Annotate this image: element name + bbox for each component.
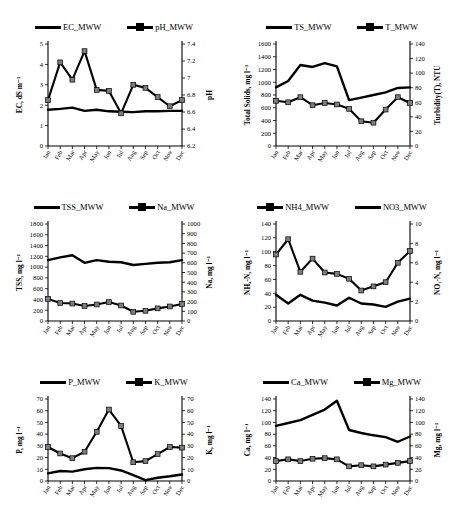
y-axis-tick-label: 100 xyxy=(261,419,272,426)
y2-axis-tick-label: 100 xyxy=(187,308,198,315)
x-axis-tick-label: Aug xyxy=(125,148,137,162)
data-point-marker xyxy=(347,276,352,281)
x-axis-tick-label: Sep xyxy=(366,484,377,496)
series-line-ts_mww xyxy=(276,63,410,100)
y2-axis-tick-label: 140 xyxy=(415,40,426,47)
data-point-marker xyxy=(383,107,388,112)
y-axis-tick-label: 0 xyxy=(40,477,44,484)
series-line-k_mww xyxy=(48,410,182,463)
x-axis-tick-label: Jun xyxy=(330,483,341,495)
y-axis-tick-label: 2 xyxy=(40,102,43,109)
y-axis-tick-label: 20 xyxy=(36,454,43,461)
y-axis-tick-label: 200 xyxy=(33,307,44,314)
x-axis-tick-label: Sep xyxy=(138,149,149,161)
y2-axis-tick-label: 120 xyxy=(415,55,426,62)
data-point-marker xyxy=(395,460,400,465)
y2-axis-tick-label: 140 xyxy=(415,395,426,402)
x-axis-tick-label: Oct xyxy=(150,324,161,336)
panel-p-k: P_MWWK_MWW010203040506070010203040506070… xyxy=(0,355,228,515)
data-point-marker xyxy=(371,464,376,469)
x-axis-tick-label: Feb xyxy=(281,484,292,496)
y-axis-tick-label: 0 xyxy=(40,142,44,149)
y2-axis-tick-label: 100 xyxy=(415,69,426,76)
y2-axis-tick-label: 1000 xyxy=(187,220,201,227)
y2-axis-tick-label: 20 xyxy=(415,466,422,473)
x-axis-tick-label: Jan xyxy=(41,148,52,160)
x-axis-tick-label: Nov xyxy=(162,483,174,497)
figure-panel-grid: EC_MWWpH_MWW0123456.26.46.66.877.27.4Jan… xyxy=(0,0,456,515)
y-axis-title: NH₄-N, mg l⁻¹ xyxy=(243,250,252,295)
x-axis-tick-label: Feb xyxy=(53,324,64,336)
x-axis-tick-label: Mar xyxy=(64,148,76,161)
y-axis-tick-label: 120 xyxy=(261,407,272,414)
y-axis-tick-label: 800 xyxy=(33,274,44,281)
y2-axis-tick-label: 2 xyxy=(415,298,418,305)
y-axis-tick-label: 0 xyxy=(268,477,272,484)
data-point-marker xyxy=(107,407,112,412)
data-point-marker xyxy=(180,98,185,103)
x-axis-tick-label: Nov xyxy=(390,483,402,497)
x-axis-tick-label: Mar xyxy=(292,483,304,496)
data-point-marker xyxy=(371,284,376,289)
data-point-marker xyxy=(143,85,148,90)
series-line-nh4_mww xyxy=(276,239,410,290)
y-axis-tick-label: 120 xyxy=(261,234,272,241)
plot-area: 0204060801001201400246810JanFebMarAprMay… xyxy=(228,180,456,355)
data-point-marker xyxy=(286,237,291,242)
data-point-marker xyxy=(107,300,112,305)
y-axis-tick-label: 60 xyxy=(264,442,271,449)
panel-nh4-no3: NH4_MWWNO3_MWW0204060801001201400246810J… xyxy=(228,180,456,355)
y2-axis-tick-label: 80 xyxy=(415,430,422,437)
y-axis-tick-label: 70 xyxy=(36,395,43,402)
data-point-marker xyxy=(143,459,148,464)
x-axis-tick-label: Aug xyxy=(353,148,365,162)
y2-axis-tick-label: 8 xyxy=(415,240,419,247)
plot-area: 0200400600800100012001400160002040608010… xyxy=(228,0,456,180)
y2-axis-tick-label: 900 xyxy=(187,230,198,237)
x-axis-tick-label: Feb xyxy=(53,484,64,496)
y-axis-tick-label: 80 xyxy=(264,262,271,269)
series-line-tss_mww xyxy=(48,255,182,265)
y-axis-tick-label: 50 xyxy=(36,419,43,426)
data-point-marker xyxy=(131,309,136,314)
data-point-marker xyxy=(180,445,185,450)
data-point-marker xyxy=(298,269,303,274)
y2-axis-tick-label: 6 xyxy=(415,259,419,266)
y2-axis-tick-label: 6.6 xyxy=(187,108,196,115)
y2-axis-title: NO₃-N, mg l⁻¹ xyxy=(433,250,442,295)
x-axis-tick-label: Jul xyxy=(115,324,125,334)
y2-axis-tick-label: 500 xyxy=(187,269,198,276)
data-point-marker xyxy=(408,249,413,254)
data-point-marker xyxy=(155,306,160,311)
y2-axis-tick-label: 10 xyxy=(187,466,194,473)
data-point-marker xyxy=(70,301,75,306)
data-point-marker xyxy=(359,463,364,468)
y2-axis-tick-label: 7 xyxy=(187,74,191,81)
y-axis-tick-label: 1 xyxy=(40,122,43,129)
x-axis-tick-label: Nov xyxy=(162,323,174,337)
chart-svg: 020406080100120140020406080100120140JanF… xyxy=(228,355,456,515)
data-point-marker xyxy=(359,288,364,293)
y-axis-tick-label: 1600 xyxy=(30,231,44,238)
y-axis-tick-label: 600 xyxy=(261,104,272,111)
series-line-na_mww xyxy=(48,299,182,312)
data-point-marker xyxy=(70,456,75,461)
y2-axis-tick-label: 100 xyxy=(415,419,426,426)
y2-axis-tick-label: 40 xyxy=(415,454,422,461)
chart-svg: 0204060801001201400246810JanFebMarAprMay… xyxy=(228,180,456,355)
y-axis-tick-label: 30 xyxy=(36,442,43,449)
data-point-marker xyxy=(383,280,388,285)
y2-axis-tick-label: 10 xyxy=(415,220,422,227)
x-axis-tick-label: May xyxy=(316,148,328,162)
plot-area: 0123456.26.46.66.877.27.4JanFebMarAprMay… xyxy=(0,0,228,180)
x-axis-tick-label: Oct xyxy=(150,149,161,161)
y-axis-tick-label: 1200 xyxy=(30,253,44,260)
data-point-marker xyxy=(347,106,352,111)
x-axis-tick-label: Feb xyxy=(53,149,64,161)
y-axis-tick-label: 80 xyxy=(264,430,271,437)
x-axis-tick-label: Dec xyxy=(174,484,185,497)
data-point-marker xyxy=(94,302,99,307)
y-axis-title: Total Solids, mg l⁻¹ xyxy=(243,65,252,126)
series-line-ph_mww xyxy=(48,51,182,113)
y-axis-tick-label: 140 xyxy=(261,220,272,227)
